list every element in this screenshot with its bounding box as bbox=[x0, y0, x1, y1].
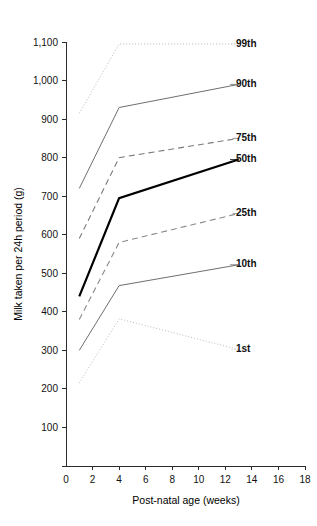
y-tick-label: 400 bbox=[41, 306, 58, 317]
y-tick-label: 700 bbox=[41, 191, 58, 202]
y-tick-label: 900 bbox=[41, 114, 58, 125]
percentile-line-chart: 1002003004005006007008009001,0001,100 02… bbox=[0, 0, 317, 526]
x-axis-title: Post-natal age (weeks) bbox=[132, 494, 239, 506]
series-label-25th: 25th bbox=[236, 207, 257, 218]
y-tick-label: 100 bbox=[41, 422, 58, 433]
y-tick-label: 1,000 bbox=[33, 75, 58, 86]
x-tick-label: 0 bbox=[63, 474, 69, 485]
y-axis-title: Milk taken per 24h period (g) bbox=[12, 187, 24, 321]
x-tick-label: 10 bbox=[193, 474, 205, 485]
y-tick-label: 1,100 bbox=[33, 37, 58, 48]
series-label-50th: 50th bbox=[236, 153, 257, 164]
x-tick-label: 4 bbox=[116, 474, 122, 485]
series-label-75th: 75th bbox=[236, 132, 257, 143]
x-tick-label: 14 bbox=[246, 474, 258, 485]
x-tick-label: 6 bbox=[143, 474, 149, 485]
chart-container: 1002003004005006007008009001,0001,100 02… bbox=[0, 0, 317, 526]
y-tick-label: 300 bbox=[41, 345, 58, 356]
series-label-1st: 1st bbox=[236, 343, 251, 354]
x-tick-label: 8 bbox=[169, 474, 175, 485]
x-tick-label: 12 bbox=[220, 474, 232, 485]
x-tick-label: 18 bbox=[299, 474, 311, 485]
series-label-99th: 99th bbox=[236, 38, 257, 49]
y-tick-label: 500 bbox=[41, 268, 58, 279]
series-label-90th: 90th bbox=[236, 78, 257, 89]
x-tick-label: 16 bbox=[273, 474, 285, 485]
y-tick-label: 600 bbox=[41, 229, 58, 240]
y-tick-label: 200 bbox=[41, 383, 58, 394]
y-tick-label: 800 bbox=[41, 152, 58, 163]
x-tick-label: 2 bbox=[90, 474, 96, 485]
series-label-10th: 10th bbox=[236, 258, 257, 269]
